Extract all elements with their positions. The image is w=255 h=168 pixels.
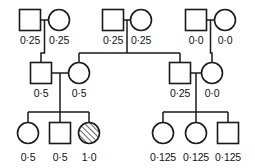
pedigree-diagram: 0·250·250·250·250·00·00·50·50·250·00·50·… (0, 0, 255, 168)
value-label-i-6: 0·0 (218, 34, 233, 46)
descent-I12-to-II1 (41, 20, 45, 63)
value-label-ii-2: 0·5 (72, 87, 87, 99)
pedigree-node-i-2-female (49, 10, 70, 31)
pedigree-node-iii-6-male (218, 123, 239, 144)
pedigree-node-i-4-female (131, 10, 152, 31)
pedigree-node-iii-1-female (18, 123, 39, 144)
pedigree-node-ii-3-male (170, 63, 191, 84)
descent-I56-to-II4 (211, 20, 213, 63)
value-label-i-5: 0·0 (189, 34, 204, 46)
pedigree-canvas: 0·250·250·250·250·00·00·50·50·250·00·50·… (0, 0, 255, 168)
pedigree-node-ii-1-male (31, 63, 52, 84)
pedigree-node-iii-4-female (153, 123, 174, 144)
value-label-i-2: 0·25 (49, 34, 70, 46)
pedigree-node-iii-2-male (50, 123, 71, 144)
value-label-ii-4: 0·0 (205, 87, 220, 99)
value-label-iii-5: 0·125 (183, 151, 209, 163)
pedigree-node-ii-4-female (202, 63, 223, 84)
value-label-ii-3: 0·25 (170, 87, 191, 99)
pedigree-node-iii-5-female (186, 123, 207, 144)
pedigree-node-i-5-male (186, 10, 207, 31)
pedigree-node-i-3-male (103, 10, 124, 31)
value-label-iii-6: 0·125 (215, 151, 241, 163)
pedigree-node-ii-2-female (69, 63, 90, 84)
value-label-iii-1: 0·5 (21, 151, 36, 163)
pedigree-node-i-6-female (215, 10, 236, 31)
pedigree-nodes (18, 10, 239, 144)
value-label-iii-4: 0·125 (150, 151, 176, 163)
value-label-iii-2: 0·5 (53, 151, 68, 163)
pedigree-node-i-1-male (20, 10, 41, 31)
pedigree-node-iii-3-female-affected (79, 123, 100, 144)
value-label-i-3: 0·25 (103, 34, 124, 46)
value-label-iii-3: 1·0 (82, 151, 97, 163)
value-label-i-4: 0·25 (131, 34, 152, 46)
value-label-i-1: 0·25 (20, 34, 41, 46)
value-label-ii-1: 0·5 (34, 87, 49, 99)
